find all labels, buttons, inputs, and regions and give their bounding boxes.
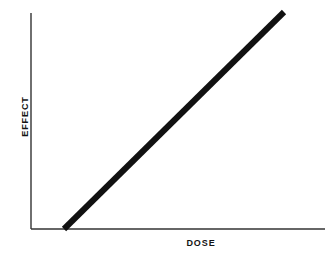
x-axis-label: DOSE — [151, 239, 251, 248]
y-axis-label: EFFECT — [21, 87, 30, 147]
chart-plot-area — [0, 0, 335, 257]
dose-effect-chart: EFFECT DOSE — [0, 0, 335, 257]
